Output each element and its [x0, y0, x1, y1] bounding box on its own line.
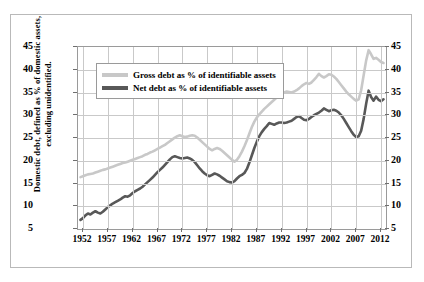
y-tick-mark [385, 46, 389, 47]
x-tick-label: 2012 [360, 234, 400, 244]
gridline-vertical [331, 47, 332, 229]
legend-item-net: Net debt as % of identifiable assets [102, 81, 276, 94]
x-tick-mark [330, 228, 331, 232]
x-tick-mark [256, 228, 257, 232]
y-tick-label-left: 10 [3, 200, 33, 210]
legend-swatch-net [102, 86, 128, 90]
x-tick-mark [231, 228, 232, 232]
x-tick-mark [107, 228, 108, 232]
legend-label-net: Net debt as % of identifiable assets [133, 83, 267, 93]
x-tick-mark [355, 228, 356, 232]
y-tick-label-left: 30 [3, 109, 33, 119]
x-tick-mark [380, 228, 381, 232]
y-tick-mark [385, 205, 389, 206]
legend-swatch-gross [102, 73, 128, 77]
gridline-vertical [356, 47, 357, 229]
x-tick-mark [82, 228, 83, 232]
y-tick-mark [73, 205, 77, 206]
x-tick-mark [281, 228, 282, 232]
y-tick-label-right: 45 [391, 41, 421, 51]
y-tick-label-right: 25 [391, 132, 421, 142]
y-tick-mark [73, 69, 77, 70]
y-tick-label-left: 35 [3, 87, 33, 97]
chart-legend: Gross debt as % of identifiable assets N… [96, 63, 284, 99]
chart-figure: Domestic debt, defined as % of domestic … [10, 14, 412, 268]
x-tick-mark [132, 228, 133, 232]
y-tick-label-right: 15 [391, 178, 421, 188]
y-tick-mark [385, 69, 389, 70]
y-tick-mark [73, 228, 77, 229]
legend-label-gross: Gross debt as % of identifiable assets [133, 70, 276, 80]
y-tick-mark [385, 228, 389, 229]
y-tick-label-right: 20 [391, 155, 421, 165]
gridline-vertical [381, 47, 382, 229]
y-tick-label-right: 30 [391, 109, 421, 119]
y-tick-label-left: 40 [3, 64, 33, 74]
y-tick-mark [385, 160, 389, 161]
gridline-vertical [307, 47, 308, 229]
y-tick-mark [73, 46, 77, 47]
y-tick-mark [385, 183, 389, 184]
y-tick-mark [73, 183, 77, 184]
y-tick-mark [385, 137, 389, 138]
y-tick-label-left: 45 [3, 41, 33, 51]
gridline-vertical [83, 47, 84, 229]
y-tick-mark [73, 114, 77, 115]
y-tick-label-right: 10 [391, 200, 421, 210]
x-tick-mark [157, 228, 158, 232]
y-tick-label-left: 25 [3, 132, 33, 142]
y-tick-mark [73, 160, 77, 161]
y-tick-mark [385, 114, 389, 115]
y-tick-mark [73, 92, 77, 93]
plot-area: Gross debt as % of identifiable assets N… [77, 46, 387, 230]
x-tick-mark [306, 228, 307, 232]
y-tick-label-right: 5 [391, 223, 421, 233]
y-tick-label-left: 5 [3, 223, 33, 233]
x-tick-mark [206, 228, 207, 232]
x-tick-mark [181, 228, 182, 232]
y-axis-title: Domestic debt, defined as % of domestic … [32, 9, 54, 199]
y-tick-label-left: 20 [3, 155, 33, 165]
y-tick-label-left: 15 [3, 178, 33, 188]
y-tick-mark [73, 137, 77, 138]
legend-item-gross: Gross debt as % of identifiable assets [102, 68, 276, 81]
y-tick-label-right: 40 [391, 64, 421, 74]
y-tick-mark [385, 92, 389, 93]
y-tick-label-right: 35 [391, 87, 421, 97]
